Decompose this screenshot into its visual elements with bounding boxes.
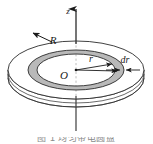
label-O: O [60,69,68,81]
origin-point [75,69,78,72]
label-r: r [89,53,93,64]
figure-caption: 图 1 均匀带电圆盘 [0,137,153,144]
label-R: R [49,34,57,46]
disk-diagram: z R O r dr [0,0,153,144]
figure-container: z R O r dr 图 1 均匀带电圆盘 [0,0,153,144]
caption-strip: 图 1 均匀带电圆盘 [0,137,153,144]
label-dr: dr [121,54,130,65]
axis-label-z: z [65,6,70,16]
